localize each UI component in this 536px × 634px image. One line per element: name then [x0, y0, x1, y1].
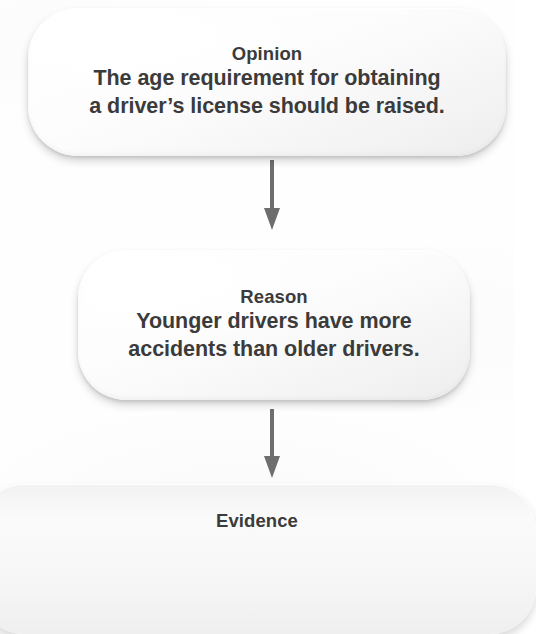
down-arrow-icon-reason-to-evidence — [260, 409, 284, 485]
node-opinion-text: The age requirement for obtaining a driv… — [71, 65, 463, 121]
node-opinion-label: Opinion — [232, 43, 303, 64]
node-reason-label: Reason — [240, 286, 307, 307]
node-reason-text: Younger drivers have more accidents than… — [114, 308, 433, 364]
node-evidence[interactable]: Evidence — [0, 484, 536, 634]
node-reason[interactable]: Reason Younger drivers have more acciden… — [78, 250, 470, 400]
node-evidence-label: Evidence — [216, 510, 298, 531]
down-arrow-icon-opinion-to-reason — [260, 160, 284, 236]
node-opinion[interactable]: Opinion The age requirement for obtainin… — [28, 8, 506, 156]
